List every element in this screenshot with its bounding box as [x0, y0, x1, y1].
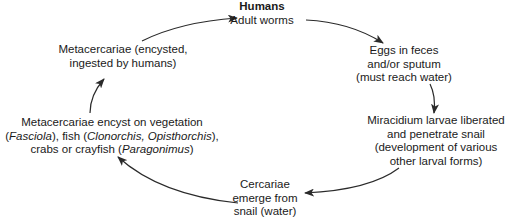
node-metacercariae-line: ingested by humans): [58, 57, 188, 71]
node-miracidium-line: (development of various: [366, 141, 506, 155]
node-cercariae-line: emerge from: [225, 192, 305, 206]
node-eggs-line: (must reach water): [349, 71, 459, 85]
node-cercariae-line: snail (water): [225, 205, 305, 219]
node-metacercariae: Metacercariae (encysted, ingested by hum…: [58, 43, 188, 70]
node-cercariae-line: Cercariae: [225, 178, 305, 192]
node-encyst-line: Metacercariae encyst on vegetation: [2, 116, 222, 130]
node-encyst: Metacercariae encyst on vegetation (Fasc…: [2, 116, 222, 157]
node-miracidium-line: Miracidium larvae liberated: [366, 114, 506, 128]
node-miracidium: Miracidium larvae liberated and penetrat…: [366, 114, 506, 168]
node-encyst-line: crabs or crayfish (Paragonimus): [2, 143, 222, 157]
node-humans-title: Humans: [212, 0, 312, 14]
node-eggs-line: Eggs in feces: [349, 44, 459, 58]
arrow-humans-to-eggs: [306, 20, 383, 43]
arrow-encyst-to-metacercariae: [90, 79, 104, 113]
node-metacercariae-line: Metacercariae (encysted,: [58, 43, 188, 57]
node-encyst-line: (Fasciola), fish (Clonorchis, Opisthorch…: [2, 130, 222, 144]
node-miracidium-line: and penetrate snail: [366, 128, 506, 142]
node-miracidium-line: other larval forms): [366, 155, 506, 169]
arrow-miracidium-to-cercariae: [305, 168, 399, 193]
node-humans: Humans Adult worms: [212, 0, 312, 27]
node-humans-text: Adult worms: [212, 14, 312, 28]
arrow-cercariae-to-encyst: [118, 157, 238, 203]
node-cercariae: Cercariae emerge from snail (water): [225, 178, 305, 219]
arrow-eggs-to-miracidium: [430, 84, 435, 113]
node-eggs: Eggs in feces and/or sputum (must reach …: [349, 44, 459, 85]
node-eggs-line: and/or sputum: [349, 58, 459, 72]
